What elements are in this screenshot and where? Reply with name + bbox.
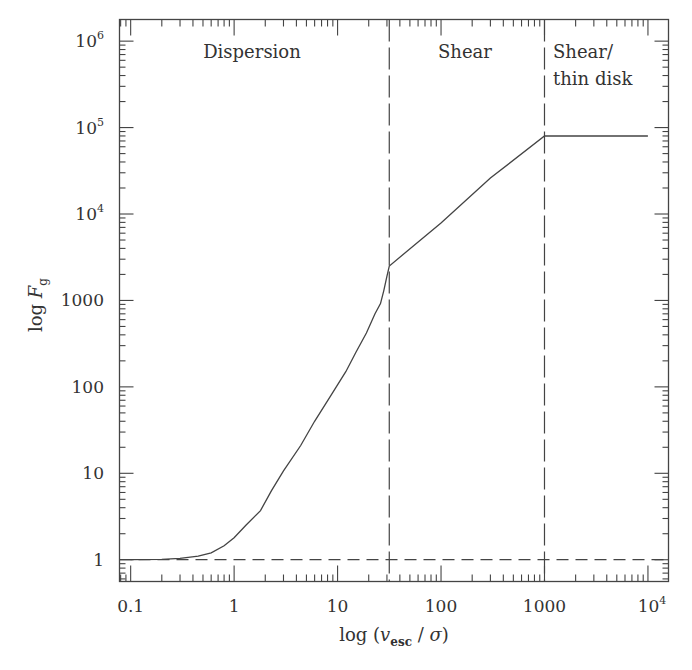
y-tick-label: 104 [75, 202, 104, 224]
y-axis-title: log Fg [25, 278, 50, 332]
region-label-dispersion: Dispersion [203, 41, 301, 62]
y-tick-label: 105 [75, 116, 104, 138]
axis-ticks [120, 20, 669, 582]
plot-frame [120, 20, 669, 582]
y-tick-label: 1 [93, 550, 104, 570]
region-labels: DispersionShearShear/thin disk [203, 41, 633, 89]
x-tick-label: 10 [327, 596, 349, 616]
x-axis-title: log (vesc / σ) [339, 624, 449, 649]
region-label-shear-thin-disk: Shear/thin disk [553, 41, 633, 89]
axis-tick-labels: 0.111010010001041101001000104105106 [61, 29, 667, 616]
y-tick-label: 100 [72, 377, 104, 397]
x-tick-label: 1 [229, 596, 240, 616]
x-tick-label: 104 [638, 594, 667, 616]
chart: 0.111010010001041101001000104105106 Disp… [0, 0, 692, 670]
region-label-shear: Shear [438, 41, 492, 62]
x-tick-label: 0.1 [117, 596, 144, 616]
y-tick-label: 10 [82, 463, 104, 483]
x-tick-label: 100 [425, 596, 457, 616]
x-tick-label: 1000 [523, 596, 566, 616]
plot-area [120, 20, 669, 582]
y-tick-label: 106 [75, 29, 104, 51]
y-tick-label: 1000 [61, 290, 104, 310]
